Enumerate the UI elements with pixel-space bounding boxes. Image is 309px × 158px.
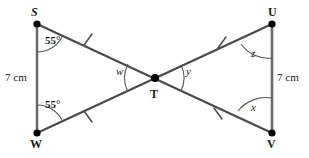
- diagram-canvas: [0, 0, 309, 158]
- tick-mark-wt: [84, 111, 92, 122]
- angle-arc-z: [241, 44, 272, 58]
- angle-label-y-var: y: [186, 66, 191, 77]
- vertex-dot-u: [268, 20, 275, 27]
- vertex-label-t: T: [150, 88, 158, 100]
- angle-label-w-var: w: [116, 66, 123, 77]
- angle-arc-w-var: [125, 64, 128, 92]
- side-label-sw: 7 cm: [5, 72, 27, 83]
- vertex-label-s: S: [31, 6, 38, 18]
- angle-label-z-var: z: [251, 48, 255, 59]
- angle-arc-y-var: [181, 65, 184, 91]
- vertex-dot-w: [33, 129, 40, 136]
- geometry-diagram: S W U V T 55° 55° w y z x 7 cm 7 cm: [0, 0, 309, 158]
- vertex-dot-t: [151, 74, 159, 82]
- vertex-dot-v: [268, 129, 275, 136]
- angle-label-s-55: 55°: [45, 35, 60, 46]
- vertex-label-v: V: [267, 138, 276, 150]
- vertex-label-u: U: [268, 6, 277, 18]
- vertex-label-w: W: [30, 138, 42, 150]
- angle-label-w-55: 55°: [45, 99, 60, 110]
- side-label-uv: 7 cm: [277, 72, 299, 83]
- angle-label-x-var: x: [251, 102, 256, 113]
- vertex-dot-s: [33, 20, 40, 27]
- tick-mark-st: [84, 34, 92, 45]
